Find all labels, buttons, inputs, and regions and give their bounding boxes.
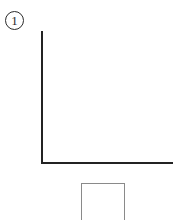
caption-box bbox=[81, 183, 125, 220]
figure-panel: 1 bbox=[0, 0, 180, 220]
panel-label-text: 1 bbox=[11, 14, 18, 27]
plot-area bbox=[43, 31, 173, 162]
x-axis-line bbox=[41, 162, 173, 164]
panel-label-circle: 1 bbox=[5, 11, 24, 30]
